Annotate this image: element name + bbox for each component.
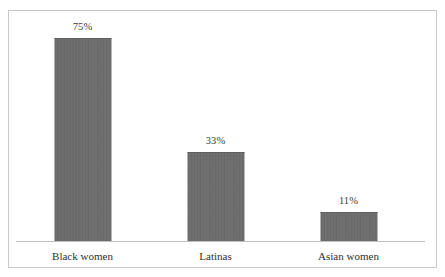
x-axis-baseline: [16, 241, 425, 242]
bar-column-latinas: 33%: [149, 16, 282, 242]
category-label-latinas: Latinas: [149, 246, 282, 266]
bar-group-1: 33%: [187, 136, 244, 243]
category-label-black-women: Black women: [16, 246, 149, 266]
bar-value-label-0: 75%: [73, 22, 93, 33]
bar-rect-black-women[interactable]: [54, 38, 111, 242]
x-axis-category-labels: Black women Latinas Asian women: [16, 246, 426, 268]
bar-rect-latinas[interactable]: [187, 152, 244, 242]
bar-column-asian-women: 11%: [282, 16, 415, 242]
bar-group-0: 75%: [54, 22, 111, 243]
bar-group-2: 11%: [320, 196, 377, 243]
plot-area: 75% 33% 11%: [16, 16, 426, 242]
category-label-asian-women: Asian women: [282, 246, 415, 266]
bar-value-label-1: 33%: [206, 136, 226, 147]
bar-value-label-2: 11%: [339, 196, 358, 207]
bar-rect-asian-women[interactable]: [320, 212, 377, 242]
bar-chart-figure: 75% 33% 11% Black women Latinas Asian wo…: [0, 0, 445, 277]
bar-column-black-women: 75%: [16, 16, 149, 242]
